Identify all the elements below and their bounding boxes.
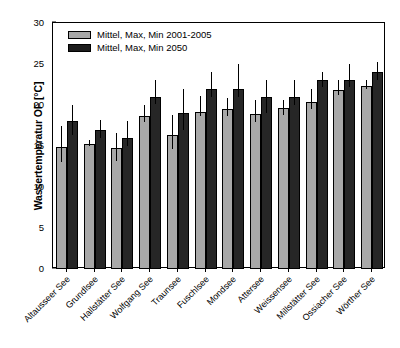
error-bar [255,100,256,122]
bar [372,72,383,269]
error-bar [100,120,101,138]
bar [84,144,95,269]
bar [317,80,328,269]
x-axis-tick-mark [232,268,233,272]
bar [111,148,122,269]
error-bar [294,80,295,105]
y-axis-tick-label: 25 [4,58,44,69]
error-bar [172,115,173,149]
x-axis-tick-mark [149,268,150,272]
error-bar [127,121,128,146]
error-bar [72,105,73,135]
bar [122,138,133,269]
bar [306,102,317,269]
x-axis-tick-label: Mondsee [205,274,238,307]
legend-item: Mittel, Max, Min 2050 [68,42,212,53]
chart-legend: Mittel, Max, Min 2001-2005 Mittel, Max, … [68,29,212,55]
plot-area [52,22,385,268]
bar [178,113,189,269]
error-bar [377,62,378,80]
bar [344,80,355,269]
legend-swatch-icon [68,44,91,52]
bar [95,130,106,269]
x-axis-tick-mark [205,268,206,272]
error-bar [283,100,284,115]
error-bar [116,133,117,161]
y-axis-tick-label: 10 [4,181,44,192]
y-axis-tick-label: 30 [4,17,44,28]
y-axis-tick-label: 20 [4,99,44,110]
error-bar [144,105,145,122]
x-axis-tick-mark [316,268,317,272]
legend-item: Mittel, Max, Min 2001-2005 [68,29,212,40]
error-bar [311,89,312,110]
y-axis-tick-label: 5 [4,222,44,233]
x-axis-tick-mark [371,268,372,272]
error-bar [155,80,156,104]
bar [361,86,372,269]
error-bar [61,126,62,162]
error-bar [200,96,201,117]
bar [333,90,344,269]
x-axis-tick-mark [288,268,289,272]
bar [250,114,261,269]
bar [67,121,78,269]
bar [206,89,217,269]
bar [167,135,178,269]
x-axis-tick-mark [177,268,178,272]
x-axis-tick-mark [66,268,67,272]
error-bar [238,64,239,97]
y-axis-tick-label: 15 [4,140,44,151]
bar [195,112,206,269]
error-bar [366,80,367,89]
error-bar [349,64,350,87]
y-axis-tick-label: 0 [4,263,44,274]
bar [233,89,244,269]
bar-series-container [53,23,384,267]
bar [139,116,150,269]
legend-item-label: Mittel, Max, Min 2050 [97,42,187,53]
bar [222,109,233,269]
x-axis-tick-mark [343,268,344,272]
error-bar [183,89,184,130]
error-bar [89,140,90,146]
bar [150,97,161,269]
error-bar [338,80,339,95]
error-bar [227,98,228,116]
chart-figure: Wassertemperatur OF [°C] 051015202530 Al… [0,0,400,348]
legend-swatch-icon [68,31,91,39]
legend-item-label: Mittel, Max, Min 2001-2005 [97,29,212,40]
bar [278,108,289,269]
bar [56,147,67,269]
bar [261,97,272,269]
x-axis-tick-mark [121,268,122,272]
x-axis-tick-label: Altausseer See [22,274,72,324]
x-axis-tick-mark [94,268,95,272]
x-axis-tick-mark [260,268,261,272]
error-bar [322,72,323,87]
error-bar [266,80,267,113]
bar [289,97,300,269]
error-bar [211,72,212,97]
